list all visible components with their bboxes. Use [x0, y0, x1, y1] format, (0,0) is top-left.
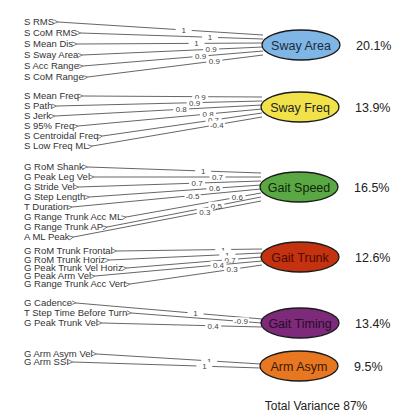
- factor-name: Sway Area: [271, 39, 331, 53]
- factor-node: Gait Speed16.5%: [260, 172, 389, 202]
- variable-label: G Peak Trunk Vel: [24, 317, 98, 328]
- variable-label: S Low Freq ML: [24, 140, 88, 151]
- loading-arrow: [82, 47, 263, 55]
- factor-diagram: 1110.90.90.90.90.90.80.80.7-0.410.70.70.…: [0, 0, 397, 415]
- factor-node: Gait Trunk12.6%: [261, 242, 390, 272]
- variable-label: S RMS: [24, 16, 54, 27]
- loading-arrow: [92, 117, 262, 146]
- loading-value: 0.7: [191, 179, 203, 188]
- total-variance: Total Variance 87%: [265, 399, 368, 413]
- loading-value: -0.4: [210, 121, 224, 130]
- loading-value: 1: [208, 33, 213, 42]
- factor-name: Gait Speed: [268, 181, 331, 195]
- loading-value: 1: [193, 309, 198, 318]
- variable-label: S Acc Range: [24, 60, 79, 71]
- loading-value: 0.9: [189, 99, 201, 108]
- factor-variance: 20.1%: [356, 39, 391, 53]
- loading-value: 1: [201, 167, 206, 176]
- loading-arrow: [78, 109, 262, 126]
- factor-name: Arm Asym: [271, 360, 328, 374]
- loading-arrow: [97, 354, 261, 364]
- variable-label: S Mean Dis: [24, 38, 73, 49]
- factor-variance: 13.9%: [355, 101, 390, 115]
- loading-value: 0.9: [195, 52, 207, 61]
- factor-node: Gait Timing13.4%: [261, 308, 390, 338]
- variable-label: S CoM RMS: [24, 27, 77, 38]
- loading-arrow: [79, 181, 261, 187]
- loading-value: 0.9: [209, 57, 221, 66]
- factor-node: Arm Asym9.5%: [260, 351, 383, 381]
- loading-value: 1: [202, 362, 207, 371]
- loading-value: 0.6: [209, 184, 221, 193]
- variable-labels: S RMSS CoM RMSS Mean DisS Sway AreaS Acc…: [24, 16, 127, 367]
- loading-value: 0.7: [212, 173, 224, 182]
- loading-value: 0.8: [176, 105, 188, 114]
- factor-variance: 9.5%: [354, 360, 383, 374]
- loading-arrow: [77, 43, 263, 44]
- variable-label: S Sway Area: [24, 49, 79, 60]
- factor-variance: 16.5%: [354, 181, 389, 195]
- loading-value: -0.5: [186, 192, 200, 201]
- factor-node: Sway Area20.1%: [262, 30, 391, 60]
- loading-value: 1: [181, 26, 186, 35]
- loading-arrow: [117, 249, 262, 251]
- loading-arrow: [130, 265, 262, 284]
- loading-arrow: [73, 362, 261, 368]
- loading-value: -0.9: [234, 317, 248, 326]
- variable-label: G Arm SSI: [24, 356, 69, 367]
- loading-value: 1: [194, 39, 199, 48]
- factor-variance: 13.4%: [355, 317, 390, 331]
- factor-node: Sway Freq13.9%: [261, 92, 390, 122]
- loading-arrow: [55, 105, 262, 116]
- loading-arrow: [57, 101, 262, 106]
- factor-name: Gait Timing: [268, 317, 331, 331]
- loading-arrow: [83, 96, 262, 97]
- factor-variance: 12.6%: [355, 251, 390, 265]
- loading-arrow: [81, 33, 263, 39]
- loading-value: 0.3: [199, 208, 211, 217]
- variable-label: S CoM Range: [24, 71, 84, 82]
- loading-value: 0.4: [208, 322, 220, 331]
- loading-value: 0.3: [227, 265, 239, 274]
- factor-name: Sway Freq: [270, 101, 330, 115]
- factor-name: Gait Trunk: [271, 251, 329, 265]
- factor-nodes: Sway Area20.1%Sway Freq13.9%Gait Speed16…: [260, 30, 391, 381]
- variable-label: A ML Peak: [24, 231, 70, 242]
- loading-value: 0.4: [213, 261, 225, 270]
- loading-arrow: [88, 167, 261, 173]
- variable-label: G Range Trunk Acc Vert: [24, 278, 126, 289]
